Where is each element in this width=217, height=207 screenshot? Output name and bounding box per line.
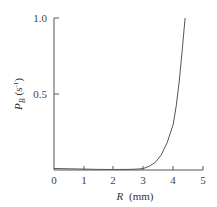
- y-tick-label: 1.0: [33, 12, 47, 24]
- chart: 1.0 0.5 0 1 2 3 4 5 R (mm) PB(s-1): [0, 0, 217, 207]
- x-tick-label: 5: [200, 174, 206, 186]
- y-tick-label: 0.5: [33, 88, 47, 100]
- x-tick-label: 3: [140, 174, 146, 186]
- y-axis-label: PB(s-1): [12, 78, 27, 111]
- x-tick-label: 4: [170, 174, 176, 186]
- data-curve-pb: [54, 18, 185, 170]
- x-tick-label: 2: [110, 174, 116, 186]
- x-tick-label: 1: [81, 174, 87, 186]
- x-tick-label: 0: [51, 174, 57, 186]
- x-axis-label: R (mm): [116, 190, 154, 203]
